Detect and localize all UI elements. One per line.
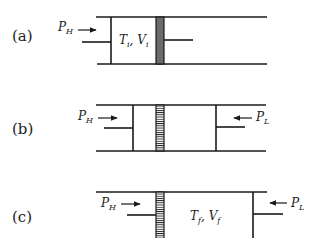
initial-state-label: Ti, Vi (119, 33, 149, 49)
panel-c: (c) PH PL Tf, Vf (12, 192, 304, 238)
panel-label-b: (b) (12, 120, 33, 138)
pressure-label-high: PH (77, 109, 94, 125)
panel-label-a: (a) (12, 27, 33, 45)
porous-plug (156, 192, 164, 238)
piston-cylinder-diagram: (a) PH Ti, Vi (b) PH PL (c) PH PL (0, 0, 310, 238)
pressure-label-low: PL (255, 110, 269, 126)
pressure-label-high: PH (57, 20, 74, 36)
solid-piston (156, 17, 164, 64)
pressure-label-high: PH (100, 196, 117, 212)
panel-label-c: (c) (12, 208, 32, 226)
porous-plug (156, 105, 164, 151)
panel-b: (b) PH PL (12, 105, 269, 151)
pressure-label-low: PL (290, 196, 304, 212)
panel-a: (a) PH Ti, Vi (12, 17, 267, 64)
final-state-label: Tf, Vf (190, 209, 222, 225)
